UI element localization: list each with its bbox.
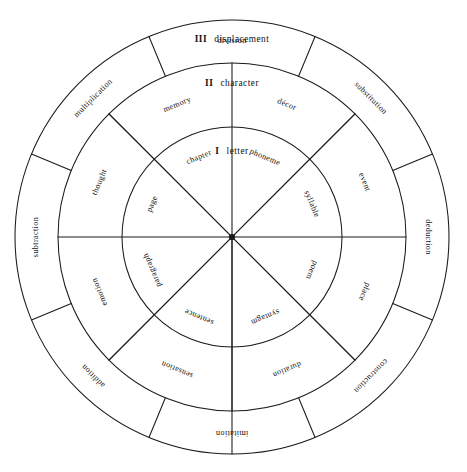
label-inner-5: paragraph [141,252,163,289]
label-outer-4: addition [79,362,106,389]
label-middle-6: thought [90,167,109,196]
wheel-canvas: phonemesyllablepoemsyntagmsentenceparagr… [0,0,467,472]
label-inner-3: syntagm [249,307,281,327]
level-numeral-iii: III [195,34,208,44]
label-middle-1: event [357,171,373,193]
label-outer-1: deduction [424,219,433,254]
label-inner-1: syllable [302,189,321,219]
level-name-iii: displacement [214,34,269,44]
label-inner-2: poem [304,259,320,281]
label-inner-0: phoneme [248,147,281,168]
spoke-diagonal-0 [232,114,355,237]
wheel-center-hub [229,234,235,240]
level-header-iii: IIIdisplacement [195,34,270,44]
label-outer-5: subtraction [31,217,40,257]
level-header-ii: IIcharacter [205,78,259,88]
spoke-diagonal-1 [232,237,355,360]
level-numeral-ii: II [205,78,213,88]
spoke-outer-1 [393,154,433,170]
label-middle-0: décor [276,96,298,112]
label-middle-5: emotion [90,277,110,308]
spoke-outer-3 [299,398,315,438]
label-middle-3: duration [271,360,302,380]
label-inner-7: chapter [185,148,213,166]
level-name-ii: character [220,78,259,88]
spoke-outer-4 [149,398,165,438]
label-inner-6: page [145,194,160,213]
semiotic-wheel-diagram: phonemesyllablepoemsyntagmsentenceparagr… [0,0,467,472]
label-inner-4: sentence [183,307,215,327]
label-outer-3: imitation [216,429,249,438]
label-middle-4: sensation [160,359,195,380]
label-middle-7: memory [162,94,193,114]
level-numeral-i: I [215,146,219,156]
level-header-i: Iletter [215,146,249,156]
label-outer-6: multiplication [72,77,114,119]
label-outer-0: substitution [353,80,389,116]
spoke-diagonal-3 [109,114,232,237]
level-name-i: letter [227,146,250,156]
label-middle-2: place [357,281,373,302]
spoke-outer-0 [299,37,315,77]
spoke-outer-7 [149,37,165,77]
spoke-outer-2 [393,304,433,320]
spoke-outer-6 [32,154,72,170]
label-outer-2: construction [352,357,390,395]
spoke-outer-5 [32,304,72,320]
spoke-diagonal-2 [109,237,232,360]
